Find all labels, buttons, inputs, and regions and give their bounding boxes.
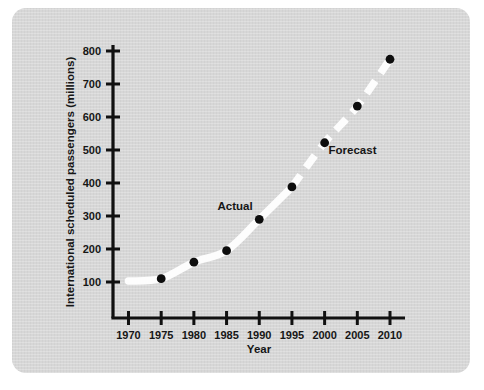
data-point-marker — [386, 55, 395, 64]
y-tick-label: 800 — [83, 45, 101, 57]
x-tick-label: 1985 — [214, 329, 238, 341]
data-point-marker — [288, 183, 297, 192]
y-tick-label: 200 — [83, 243, 101, 255]
figure-root: 100200300400500600700800 197019751980198… — [0, 0, 484, 390]
annotation-forecast: Forecast — [329, 144, 377, 156]
x-tick-label: 2005 — [345, 329, 369, 341]
annotation-actual: Actual — [218, 200, 253, 212]
x-tick-label: 1990 — [247, 329, 271, 341]
series-actual — [129, 187, 292, 281]
y-axis-title: International scheduled passengers (mill… — [64, 57, 76, 308]
x-tick-label: 1970 — [116, 329, 140, 341]
x-axis-ticks: 197019751980198519901995200020052010 — [116, 311, 402, 341]
data-point-marker — [157, 274, 166, 283]
y-tick-label: 600 — [83, 111, 101, 123]
data-point-marker — [222, 246, 231, 255]
x-axis-title: Year — [247, 343, 272, 355]
series-layer — [129, 59, 391, 281]
series-forecast — [292, 59, 390, 187]
x-tick-label: 2000 — [312, 329, 336, 341]
data-point-marker — [189, 258, 198, 267]
y-tick-label: 100 — [83, 276, 101, 288]
data-point-marker — [255, 215, 264, 224]
x-tick-label: 2010 — [378, 329, 402, 341]
x-tick-label: 1995 — [280, 329, 304, 341]
data-point-marker — [353, 102, 362, 111]
y-tick-label: 500 — [83, 144, 101, 156]
data-markers — [157, 55, 395, 283]
line-chart: 100200300400500600700800 197019751980198… — [0, 0, 484, 390]
y-tick-label: 700 — [83, 78, 101, 90]
x-tick-label: 1980 — [182, 329, 206, 341]
y-tick-label: 400 — [83, 177, 101, 189]
y-tick-label: 300 — [83, 210, 101, 222]
x-tick-label: 1975 — [149, 329, 173, 341]
